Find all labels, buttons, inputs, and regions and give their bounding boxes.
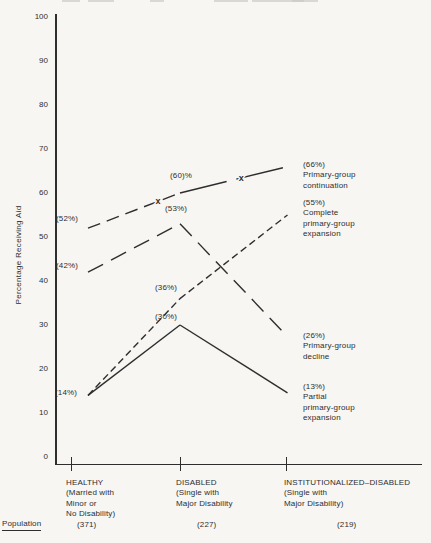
series-label-decline: (26%) Primary-group decline: [303, 331, 356, 362]
series-label-line: (66%): [303, 160, 356, 170]
point-label-42: (42%): [56, 261, 78, 271]
series-label-line: expansion: [303, 229, 355, 239]
series-label-partial-expansion: (13%) Partial primary-group expansion: [303, 382, 355, 423]
population-row-label: Population: [2, 519, 41, 529]
category-subline: Major Disability): [284, 499, 410, 509]
series-label-line: continuation: [303, 181, 356, 191]
series-label-line: (55%): [303, 198, 355, 208]
category-subline: (Single with: [284, 488, 410, 498]
series-line-3-segment-0: [88, 325, 180, 395]
category-title: HEALTHY: [66, 478, 115, 488]
category-label-healthy: HEALTHY (Married with Minor or No Disabi…: [66, 478, 115, 519]
point-label-30: (30%): [155, 312, 177, 322]
category-title: INSTITUTIONALIZED–DISABLED: [284, 478, 410, 488]
series-label-line: primary-group: [303, 219, 355, 229]
chart-figure: Percentage Receiving Aid 100 90 80 70 60…: [0, 0, 431, 543]
category-subline: Major Disability: [176, 499, 233, 509]
point-label-14: (14%): [55, 388, 77, 398]
category-title: DISABLED: [176, 478, 233, 488]
point-label-53: (53%): [165, 204, 187, 214]
series-label-line: (26%): [303, 331, 356, 341]
series-line-0-segment-1: [180, 167, 288, 193]
category-label-institutionalized-disabled: INSTITUTIONALIZED–DISABLED (Single with …: [284, 478, 410, 509]
series-label-continuation: (66%) Primary-group continuation: [303, 160, 356, 191]
x-marker-icon: x: [239, 173, 244, 183]
series-label-line: expansion: [303, 413, 355, 423]
point-label-52: (52%): [56, 214, 78, 224]
population-word: Population: [2, 519, 41, 531]
series-lines-canvas: xx: [0, 0, 431, 543]
category-label-disabled: DISABLED (Single with Major Disability: [176, 478, 233, 509]
population-value-healthy: (371): [77, 520, 96, 530]
x-marker-icon: x: [155, 196, 160, 206]
population-value-institutionalized: (219): [337, 520, 356, 530]
category-subline: No Disability): [66, 509, 115, 519]
series-label-line: Primary-group: [303, 341, 356, 351]
series-label-line: decline: [303, 352, 356, 362]
series-label-line: (13%): [303, 382, 355, 392]
series-label-complete-expansion: (55%) Complete primary-group expansion: [303, 198, 355, 239]
category-subline: Minor or: [66, 499, 115, 509]
series-label-line: Primary-group: [303, 170, 356, 180]
series-line-3-segment-1: [180, 325, 288, 393]
category-subline: (Married with: [66, 488, 115, 498]
category-subline: (Single with: [176, 488, 233, 498]
point-label-60: (60)%: [170, 171, 192, 181]
series-line-2-segment-1: [180, 224, 288, 337]
series-label-line: Complete: [303, 208, 355, 218]
series-label-line: Partial: [303, 392, 355, 402]
series-line-1-segment-1: [180, 215, 288, 299]
series-line-2-segment-0: [88, 224, 180, 272]
point-label-36: (36%): [155, 283, 177, 293]
series-label-line: primary-group: [303, 403, 355, 413]
population-value-disabled: (227): [197, 520, 216, 530]
